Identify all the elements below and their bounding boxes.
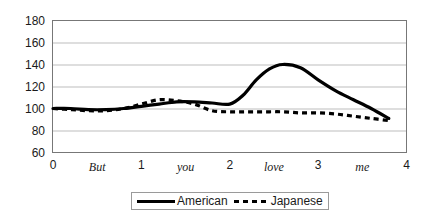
legend-label-japanese: Japanese [271,195,323,207]
legend-label-american: American [177,195,228,207]
x-axis-word-label: me [340,161,384,173]
y-axis-tick-label: 140 [5,59,45,71]
legend-entry-american: American [137,195,228,207]
legend-swatch-dashed-icon [234,200,268,203]
y-axis-tick-label: 60 [5,147,45,159]
gridlines [53,43,407,131]
x-axis-tick-label: 4 [397,159,417,171]
x-axis-tick-label: 2 [220,159,240,171]
line-chart: 1801601401201008060 0But1you2love3me4 Am… [0,0,425,217]
x-axis-tick-label: 1 [131,159,151,171]
y-axis-tick-label: 160 [5,37,45,49]
chart-legend: American Japanese [131,192,329,210]
x-axis-tick-label: 3 [308,159,328,171]
y-axis-tick-label: 100 [5,103,45,115]
legend-entry-japanese: Japanese [228,195,323,207]
y-axis-tick-label: 180 [5,15,45,27]
legend-swatch-solid-icon [137,200,175,203]
x-axis-word-label: you [164,161,208,173]
y-axis-tick-label: 120 [5,81,45,93]
x-axis-word-label: But [75,161,119,173]
x-axis-tick-label: 0 [43,159,63,171]
chart-canvas [0,0,425,217]
y-axis-tick-label: 80 [5,125,45,137]
x-axis-word-label: love [252,161,296,173]
series-line-american [53,64,389,118]
